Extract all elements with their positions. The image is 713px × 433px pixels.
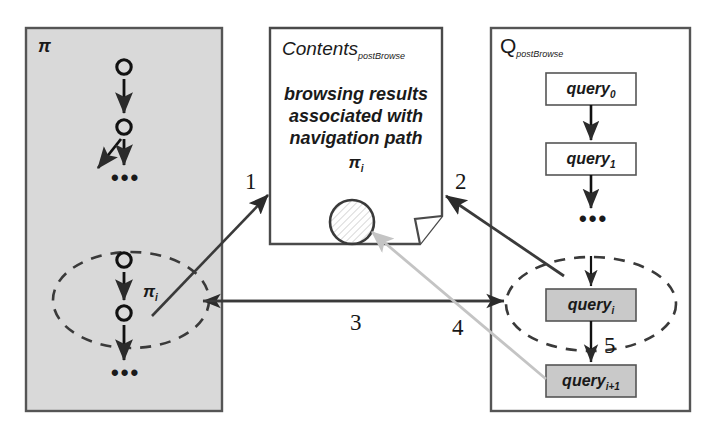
contents-body-line-1: browsing results xyxy=(276,84,436,106)
queries-title-sub: postBrowse xyxy=(516,49,563,59)
path-node-2 xyxy=(117,120,131,134)
path-ellipse-label: πi xyxy=(143,282,158,303)
path-dots-lower: ••• xyxy=(111,360,140,386)
step-label-3: 3 xyxy=(350,310,362,336)
path-node-4 xyxy=(117,306,131,320)
path-node-3 xyxy=(117,253,131,267)
contents-title: ContentspostBrowse xyxy=(282,38,405,61)
query-box-i1-label-sub: i+1 xyxy=(606,381,620,392)
query-box-i1-label[interactable]: queryi+1 xyxy=(546,372,636,392)
hatched-result-circle xyxy=(330,200,374,244)
contents-body-symbol-main: π xyxy=(349,153,361,172)
path-dots-upper: ••• xyxy=(111,165,140,191)
queries-dots: ••• xyxy=(579,206,608,232)
query-box-i-label-main: query xyxy=(568,296,612,313)
diagram-canvas: π πi ••• ••• ContentspostBrowse browsing… xyxy=(0,0,713,433)
query-box-i-label-sub: i xyxy=(611,305,614,316)
step-label-4: 4 xyxy=(452,315,464,341)
query-box-i1-label-main: query xyxy=(562,372,606,389)
contents-body-line-3: navigation path xyxy=(276,128,436,150)
contents-title-sub: postBrowse xyxy=(358,51,405,61)
query-box-0-label[interactable]: query0 xyxy=(546,80,636,100)
query-box-1-label-main: query xyxy=(566,150,610,167)
step-label-2: 2 xyxy=(455,169,467,195)
queries-title-main: Q xyxy=(500,34,516,57)
query-box-1-label-sub: 1 xyxy=(610,159,616,170)
panel-path-label: π xyxy=(38,36,51,57)
path-ellipse-label-main: π xyxy=(143,282,155,301)
query-box-0-label-main: query xyxy=(566,80,610,97)
step-label-5: 5 xyxy=(604,333,616,359)
step-label-1: 1 xyxy=(245,169,257,195)
query-box-0-label-sub: 0 xyxy=(610,89,616,100)
contents-body-symbol: πi xyxy=(276,153,436,174)
path-node-1 xyxy=(117,60,131,74)
query-box-1-label[interactable]: query1 xyxy=(546,150,636,170)
contents-title-main: Contents xyxy=(282,38,358,59)
queries-title: QpostBrowse xyxy=(500,34,563,59)
query-box-i-label[interactable]: queryi xyxy=(546,296,636,316)
path-ellipse-label-sub: i xyxy=(155,292,158,303)
doc-fold-corner xyxy=(415,216,442,244)
contents-body-symbol-sub: i xyxy=(361,163,364,174)
contents-body-line-2: associated with xyxy=(276,106,436,128)
